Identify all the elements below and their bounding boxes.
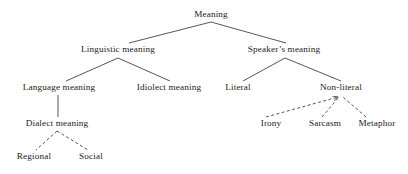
edge-sarcasm-nonliteral [322,97,339,117]
node-language-meaning: Language meaning [23,83,96,92]
edge-metaphor-nonliteral [343,97,366,117]
node-irony: Irony [261,119,282,128]
edge-linguistic-language [66,58,118,81]
edge-speakers-nonliteral [285,58,341,81]
node-speakers-meaning: Speaker’s meaning [248,45,321,54]
meaning-taxonomy-diagram: MeaningLinguistic meaningSpeaker’s meani… [0,0,408,174]
node-meaning: Meaning [194,10,228,19]
node-regional: Regional [17,152,51,161]
node-linguistic-meaning: Linguistic meaning [81,45,155,54]
node-non-literal: Non-literal [320,83,362,92]
edge-irony-nonliteral [266,97,338,117]
edge-meaning-speakers [211,22,286,43]
edge-linguistic-idiolect [118,58,170,81]
node-idiolect-meaning: Idiolect meaning [137,83,201,92]
edge-meaning-linguistic [129,22,211,43]
edge-dialect-regional [36,131,57,150]
node-social: Social [79,152,103,161]
edge-dialect-social [57,131,88,150]
node-dialect-meaning: Dialect meaning [26,119,89,128]
node-sarcasm: Sarcasm [309,119,341,128]
node-metaphor: Metaphor [359,119,396,128]
edge-speakers-literal [243,58,285,81]
node-literal: Literal [225,83,251,92]
